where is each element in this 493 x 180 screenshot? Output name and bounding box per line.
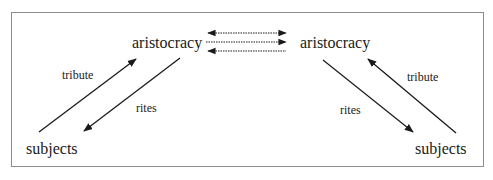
left-rites-label: rites [136, 102, 157, 114]
right-rites-arrow [323, 60, 413, 132]
right-tribute-label: tribute [407, 71, 438, 83]
left-rites-arrow [84, 58, 180, 131]
right-aristocracy-node: aristocracy [300, 35, 370, 51]
left-aristocracy-node: aristocracy [132, 35, 202, 51]
right-rites-label: rites [340, 104, 361, 116]
left-tribute-label: tribute [62, 69, 93, 81]
right-subjects-node: subjects [415, 141, 467, 157]
left-subjects-node: subjects [26, 141, 78, 157]
